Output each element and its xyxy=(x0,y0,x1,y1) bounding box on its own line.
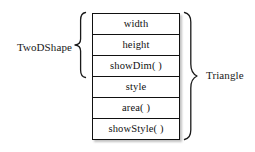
member-row: area( ) xyxy=(93,98,179,119)
member-label-area: area( ) xyxy=(122,103,150,114)
right-brace-icon xyxy=(182,11,200,141)
member-label-showstyle: showStyle( ) xyxy=(108,124,163,135)
member-label-height: height xyxy=(122,40,149,51)
class-hierarchy-diagram: TwoDShape width height showDim( ) style … xyxy=(0,0,255,152)
right-group-label: Triangle xyxy=(206,69,244,81)
member-label-width: width xyxy=(124,19,149,30)
left-brace-icon xyxy=(72,11,88,79)
member-row: showDim( ) xyxy=(93,56,179,77)
left-group-label: TwoDShape xyxy=(6,41,72,53)
member-row: width xyxy=(93,14,179,35)
member-label-showdim: showDim( ) xyxy=(110,61,162,72)
member-row: style xyxy=(93,77,179,98)
member-box: width height showDim( ) style area( ) sh… xyxy=(92,13,180,140)
member-label-style: style xyxy=(126,82,147,93)
member-row: showStyle( ) xyxy=(93,119,179,139)
member-row: height xyxy=(93,35,179,56)
